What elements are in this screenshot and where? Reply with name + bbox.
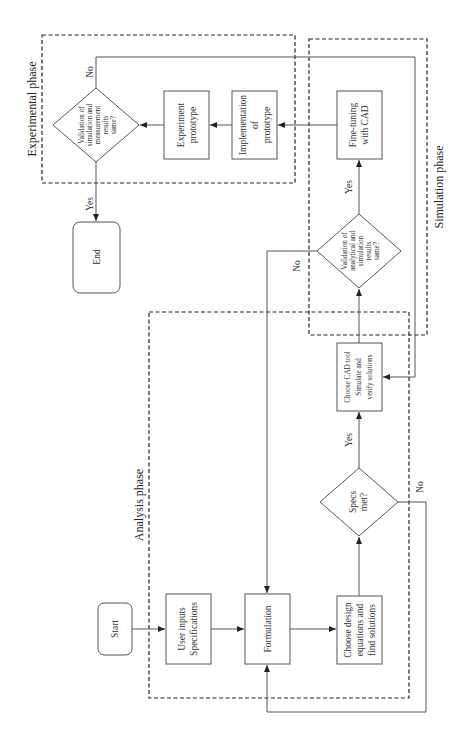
node-validation-analytical-line-4: results [365, 241, 373, 260]
edge-label-validation-measurement-no: No [85, 66, 95, 78]
node-user-inputs-line-1: User inputs [177, 607, 187, 651]
node-experiment-prototype-line-2: prototype [188, 107, 198, 143]
node-validation-analytical-line-5: same? [373, 242, 381, 260]
edge-label-specs-yes: Yes [344, 433, 354, 447]
node-validation-analytical-line-1: Validation of [341, 232, 349, 270]
simulation-phase-group: Simulation phase [309, 39, 446, 335]
analysis-phase-label: Analysis phase [132, 469, 146, 541]
node-choose-cad-line-1: Choose CAD tool [344, 351, 352, 403]
node-start: Start [98, 603, 132, 655]
node-fine-tuning-line-1: Fine-tuning [348, 103, 358, 148]
node-validation-measurement-line-2: simulation and [86, 103, 94, 146]
node-validation-measurement-line-5: same? [110, 116, 118, 134]
node-specs-met: Specs met? [320, 468, 398, 536]
node-implementation-line-1: Implementation [238, 95, 248, 155]
simulation-phase-box [309, 39, 427, 335]
node-choose-design-line-1: Choose design [343, 602, 353, 658]
edge-label-validation-analytical-no: No [292, 260, 302, 272]
node-validation-measurement-line-3: measurement [94, 106, 102, 144]
node-validation-measurement-line-4: results [102, 115, 110, 134]
node-user-inputs-line-2: Specifications [189, 602, 199, 656]
experimental-phase-label: Experimental phase [25, 62, 39, 157]
node-choose-cad-line-3: verify solutions [366, 354, 374, 399]
node-choose-cad: Choose CAD tool Simulate and verify solu… [337, 343, 382, 411]
node-choose-design-line-3: find solutions [367, 604, 377, 656]
node-fine-tuning-line-2: with CAD [360, 105, 370, 144]
node-experiment-prototype-line-1: Experiment [176, 102, 186, 147]
node-specs-met-line-1: Specs [348, 491, 358, 513]
node-validation-analytical-line-3: simulation [357, 235, 365, 266]
edge-validation-analytical-no-to-formulation [267, 251, 317, 593]
node-choose-cad-line-2: Simulate and [355, 358, 363, 396]
node-choose-design: Choose design equations and find solutio… [337, 596, 382, 664]
node-validation-analytical: Validation of analytical and simulation … [317, 214, 401, 288]
node-validation-measurement-line-1: Validation of [78, 106, 86, 144]
node-experiment-prototype: Experiment prototype [164, 91, 209, 159]
node-choose-design-line-2: equations and [355, 604, 365, 657]
node-fine-tuning: Fine-tuning with CAD [337, 91, 382, 159]
node-formulation-label: Formulation [263, 605, 273, 652]
edge-label-validation-measurement-yes: Yes [85, 197, 95, 211]
node-validation-measurement: Validation of simulation and measurement… [53, 88, 139, 162]
node-implementation-line-3: prototype [262, 107, 272, 143]
flowchart-canvas: Experimental phase Simulation phase Anal… [0, 0, 461, 733]
node-end: End [73, 222, 120, 293]
node-validation-analytical-line-2: analytical and [349, 231, 357, 272]
simulation-phase-label: Simulation phase [432, 146, 446, 229]
edge-label-validation-analytical-yes: Yes [344, 180, 354, 194]
node-implementation: Implementation of prototype [232, 91, 277, 159]
node-implementation-line-2: of [250, 120, 260, 129]
node-formulation: Formulation [245, 594, 290, 664]
edge-label-specs-no: No [415, 481, 425, 493]
node-start-label: Start [110, 620, 120, 638]
node-end-label: End [92, 249, 102, 265]
node-specs-met-line-2: met? [359, 493, 369, 511]
node-user-inputs: User inputs Specifications [166, 594, 211, 664]
